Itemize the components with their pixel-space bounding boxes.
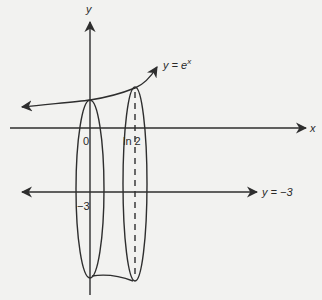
tick-ln2: ln 2 <box>123 135 141 147</box>
curve-label-exponent: x <box>186 57 192 66</box>
line-y-neg3-label: y = −3 <box>261 186 293 198</box>
x-axis-label: x <box>309 122 316 134</box>
y-axis-label: y <box>85 3 93 15</box>
tick-origin: 0 <box>83 135 89 147</box>
curve-label-base: y = e <box>162 59 187 71</box>
tick-neg3: −3 <box>77 200 90 212</box>
solid-of-revolution-diagram: y x y = ex y = −3 0 ln 2 −3 <box>0 0 322 300</box>
curve-label: y = ex <box>162 57 192 71</box>
bottom-reflected-curve <box>92 275 133 281</box>
